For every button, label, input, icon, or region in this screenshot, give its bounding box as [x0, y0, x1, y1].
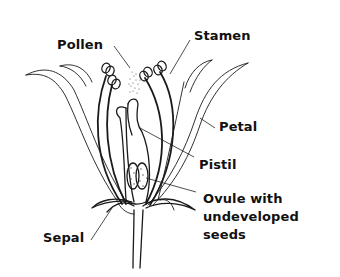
leader-sepal — [91, 208, 112, 240]
leader-petal — [200, 118, 215, 128]
label-ovule-line1: Ovule with — [203, 191, 283, 206]
stamens-right — [138, 60, 173, 205]
leader-pollen — [114, 46, 130, 68]
label-pistil: Pistil — [199, 157, 236, 172]
label-petal: Petal — [219, 119, 257, 134]
label-stamen: Stamen — [194, 28, 251, 43]
stem — [133, 210, 143, 268]
leader-stamen — [170, 40, 190, 74]
label-pollen: Pollen — [57, 37, 103, 52]
label-sepal: Sepal — [43, 230, 84, 245]
pollen-grains — [128, 71, 140, 93]
label-ovule-line2: undeveloped — [203, 209, 299, 224]
label-ovule-line3: seeds — [203, 227, 246, 242]
